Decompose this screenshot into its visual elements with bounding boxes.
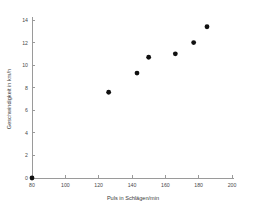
x-tick-label: 100 bbox=[61, 182, 70, 188]
y-tick-label: 12 bbox=[22, 40, 28, 46]
y-tick-label: 2 bbox=[25, 152, 28, 158]
y-tick-label: 0 bbox=[25, 175, 28, 181]
axes bbox=[32, 17, 234, 178]
data-point bbox=[135, 71, 140, 76]
scatter-plot-figure: 80100120140160180200 02468101214 Puls in… bbox=[0, 0, 253, 208]
y-axis-title: Geschwindigkeit in km/h bbox=[6, 69, 12, 129]
data-point-group bbox=[30, 24, 210, 180]
data-point bbox=[30, 176, 35, 181]
data-point bbox=[191, 40, 196, 45]
y-tick-label: 4 bbox=[25, 130, 28, 136]
y-tick-label: 10 bbox=[22, 62, 28, 68]
y-tick-label: 6 bbox=[25, 107, 28, 113]
y-tick-label: 14 bbox=[22, 17, 28, 23]
x-tick-label: 160 bbox=[161, 182, 170, 188]
data-point bbox=[173, 51, 178, 56]
y-tick-label: 8 bbox=[25, 85, 28, 91]
x-axis-ticks: 80100120140160180200 bbox=[29, 175, 236, 188]
data-point bbox=[205, 24, 210, 29]
x-tick-label: 200 bbox=[228, 182, 237, 188]
x-tick-label: 80 bbox=[29, 182, 35, 188]
x-tick-label: 120 bbox=[94, 182, 103, 188]
data-point bbox=[106, 90, 111, 95]
x-tick-label: 180 bbox=[194, 182, 203, 188]
plot-canvas: 80100120140160180200 02468101214 Puls in… bbox=[0, 0, 253, 208]
x-tick-label: 140 bbox=[128, 182, 137, 188]
data-point bbox=[146, 55, 151, 60]
y-axis-ticks: 02468101214 bbox=[22, 17, 35, 181]
x-axis-title: Puls in Schlägen/min bbox=[107, 195, 159, 201]
